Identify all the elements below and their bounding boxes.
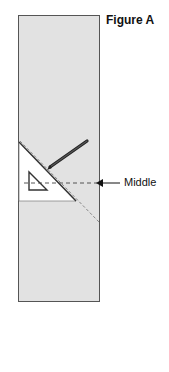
middle-label: Middle: [124, 176, 156, 188]
